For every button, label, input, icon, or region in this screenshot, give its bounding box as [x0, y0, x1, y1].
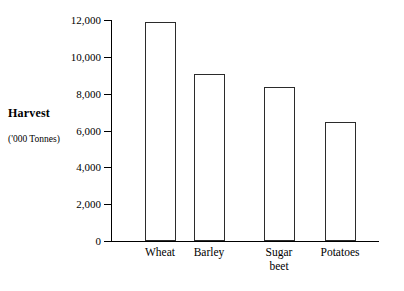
- y-axis-tick-label: 8,000: [45, 89, 101, 100]
- y-axis-tick-label: 6,000: [45, 126, 101, 137]
- y-axis-tick: [104, 167, 111, 168]
- bar[interactable]: [264, 87, 295, 241]
- x-axis-category-label: Barley: [169, 246, 249, 260]
- y-axis-tick: [104, 131, 111, 132]
- y-axis-tick-label: 12,000: [45, 15, 101, 26]
- y-axis-tick-label: 10,000: [45, 52, 101, 63]
- y-axis-tick: [104, 20, 111, 21]
- y-axis-tick: [104, 94, 111, 95]
- bar[interactable]: [194, 74, 225, 241]
- y-axis-tick: [104, 204, 111, 205]
- y-axis-tick-label: 2,000: [45, 199, 101, 210]
- plot-area: 02,0004,0006,0008,00010,00012,000: [111, 20, 379, 242]
- y-axis-tick-label: 4,000: [45, 162, 101, 173]
- y-axis-title: Harvest: [8, 106, 100, 120]
- x-axis-category-label: Potatoes: [300, 246, 380, 260]
- x-axis-tick-labels: WheatBarleySugar beetPotatoes: [111, 246, 381, 288]
- y-axis-tick: [104, 241, 111, 242]
- y-axis-line: [111, 20, 112, 242]
- x-axis-line: [111, 241, 379, 242]
- y-axis-tick: [104, 57, 111, 58]
- bar[interactable]: [325, 122, 356, 241]
- bar[interactable]: [145, 22, 176, 241]
- bar-chart-figure: Harvest ('000 Tonnes) 02,0004,0006,0008,…: [0, 0, 404, 291]
- y-axis-tick-label: 0: [45, 236, 101, 247]
